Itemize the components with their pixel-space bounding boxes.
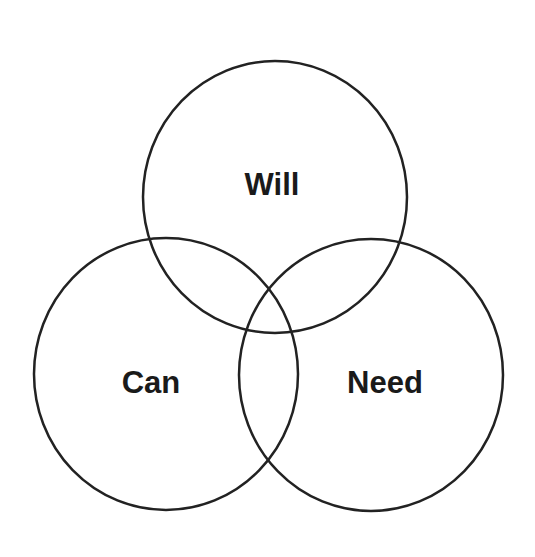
venn-svg: Will Can Need bbox=[0, 0, 535, 557]
label-can: Can bbox=[122, 365, 181, 400]
label-will: Will bbox=[245, 167, 300, 202]
label-need: Need bbox=[347, 365, 423, 400]
venn-diagram: Will Can Need bbox=[0, 0, 535, 557]
